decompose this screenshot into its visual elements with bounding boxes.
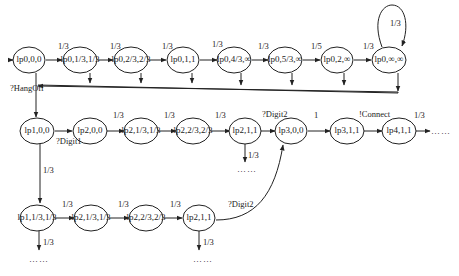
svg-text:1/3: 1/3 — [162, 41, 173, 51]
svg-text:lp2,1/3,1/3: lp2,1/3,1/3 — [121, 125, 161, 135]
node-lp2-1-1: lp2,1,1 — [229, 118, 261, 144]
svg-text:1/3: 1/3 — [215, 110, 226, 120]
svg-text:1/3: 1/3 — [212, 39, 223, 49]
svg-text:!Connect: !Connect — [359, 109, 391, 119]
svg-text:……: …… — [237, 164, 257, 174]
svg-text:lp1,0,0: lp1,0,0 — [24, 125, 50, 135]
svg-text:lp0,2,∞: lp0,2,∞ — [324, 54, 351, 64]
svg-text:lp3,1,1: lp3,1,1 — [334, 125, 359, 135]
node-lp0-2-inf: lp0,2,∞ — [321, 47, 353, 73]
svg-text:?Digit2: ?Digit2 — [262, 109, 288, 119]
node-lp2-1-3: lp2,1/3,1/3 — [121, 118, 161, 144]
svg-text:1/3: 1/3 — [43, 165, 54, 175]
svg-text:1/3: 1/3 — [58, 41, 69, 51]
svg-text:?HangOff: ?HangOff — [10, 83, 44, 93]
node-lp0-4-3: lp0,4/3,∞ — [217, 47, 251, 73]
node-lp4-1-1: lp4,1,1 — [382, 118, 416, 144]
svg-text:……: …… — [431, 126, 451, 136]
svg-text:……: …… — [193, 254, 213, 264]
svg-text:1/5: 1/5 — [311, 41, 322, 51]
node-lp0-inf-inf: lp0,∞,∞ — [372, 47, 406, 73]
node-lp2-1-3-b: lp2,1/3,1/3 — [71, 205, 111, 231]
svg-text:1/3: 1/3 — [118, 199, 129, 209]
node-lp2-2-3: lp2,2/3,2/3 — [173, 118, 213, 144]
svg-text:lp2,0,0: lp2,0,0 — [77, 125, 103, 135]
svg-text:1/3: 1/3 — [258, 41, 269, 51]
svg-text:?Digit1: ?Digit1 — [56, 136, 82, 146]
svg-text:?Digit2: ?Digit2 — [228, 199, 254, 209]
continuation-dots: …… …… …… …… — [29, 126, 451, 264]
svg-text:1/3: 1/3 — [248, 150, 259, 160]
svg-text:lp0,0,0: lp0,0,0 — [16, 54, 42, 64]
node-lp0-5-3: lp0,5/3,∞ — [268, 47, 302, 73]
svg-text:lp0,2/3,2/3: lp0,2/3,2/3 — [111, 54, 151, 64]
node-lp3-0-0: lp3,0,0 — [275, 118, 307, 144]
svg-text:1: 1 — [314, 110, 318, 120]
svg-text:1/3: 1/3 — [363, 41, 374, 51]
svg-text:1/3: 1/3 — [390, 18, 401, 28]
svg-text:lp2,1/3,1/3: lp2,1/3,1/3 — [71, 212, 111, 222]
svg-text:1/3: 1/3 — [203, 237, 214, 247]
svg-text:lp2,1,1: lp2,1,1 — [232, 125, 257, 135]
node-lp3-1-1: lp3,1,1 — [330, 118, 364, 144]
svg-text:1/3: 1/3 — [414, 110, 425, 120]
svg-text:1/3: 1/3 — [170, 199, 181, 209]
svg-text:lp0,∞,∞: lp0,∞,∞ — [375, 54, 404, 64]
node-lp2-2-3-b: lp2,2/3,2/3 — [126, 205, 166, 231]
svg-text:lp2,2/3,2/3: lp2,2/3,2/3 — [173, 125, 213, 135]
svg-text:lp0,4/3,∞: lp0,4/3,∞ — [217, 54, 251, 64]
svg-text:lp0,1/3,1/3: lp0,1/3,1/3 — [60, 54, 100, 64]
svg-text:1/3: 1/3 — [43, 237, 54, 247]
node-lp0-0-0: lp0,0,0 — [13, 47, 45, 73]
svg-text:1/3: 1/3 — [110, 41, 121, 51]
svg-text:lp1,1/3,1/3: lp1,1/3,1/3 — [17, 212, 57, 222]
row2-edges — [39, 218, 199, 250]
svg-text:lp0,5/3,∞: lp0,5/3,∞ — [268, 54, 302, 64]
svg-text:lp4,1,1: lp4,1,1 — [386, 125, 411, 135]
svg-text:lp0,1,1: lp0,1,1 — [170, 54, 195, 64]
node-lp1-0-0: lp1,0,0 — [20, 118, 54, 144]
svg-text:1/3: 1/3 — [113, 110, 124, 120]
svg-text:lp2,1,1: lp2,1,1 — [186, 212, 211, 222]
svg-text:lp2,2/3,2/3: lp2,2/3,2/3 — [126, 212, 166, 222]
svg-text:……: …… — [29, 254, 49, 264]
svg-text:1/3: 1/3 — [164, 110, 175, 120]
svg-text:lp3,0,0: lp3,0,0 — [278, 125, 304, 135]
node-lp1-1-3: lp1,1/3,1/3 — [17, 205, 57, 231]
svg-text:1/3: 1/3 — [62, 199, 73, 209]
node-lp2-1-1-b: lp2,1,1 — [183, 205, 215, 231]
state-diagram: lp0,0,0 lp0,1/3,1/3 lp0,2/3,2/3 lp0,1,1 … — [0, 0, 459, 276]
